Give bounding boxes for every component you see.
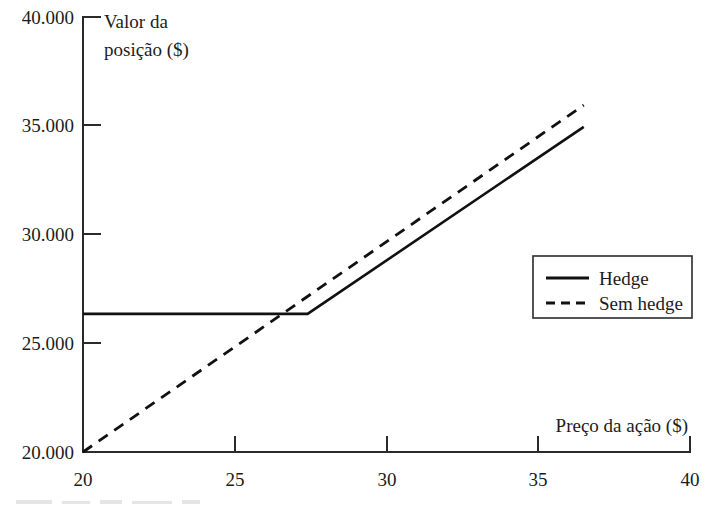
- y-tick-label-35000: 35.000: [22, 115, 74, 136]
- series-line-sem-hedge: [83, 105, 584, 452]
- chart-figure: 40.000 35.000 30.000 25.000 20.000 20 25…: [0, 0, 717, 507]
- x-tick-label-25: 25: [226, 469, 245, 490]
- scan-artifact: [132, 501, 172, 504]
- legend-label-hedge: Hedge: [599, 268, 649, 289]
- x-tick-labels: 20 25 30 35 40: [74, 469, 700, 490]
- chart-legend: Hedge Sem hedge: [533, 256, 692, 318]
- y-tick-label-20000: 20.000: [22, 442, 74, 463]
- y-axis-title-line-2: posição ($): [104, 39, 189, 61]
- y-tick-label-25000: 25.000: [22, 333, 74, 354]
- y-tick-marks: [83, 17, 101, 452]
- scan-artifact: [100, 500, 122, 504]
- y-tick-labels: 40.000 35.000 30.000 25.000 20.000: [22, 7, 74, 463]
- x-axis-title: Preço da ação ($): [556, 415, 688, 437]
- scan-artifact-group: [16, 500, 200, 504]
- series-line-hedge: [83, 127, 584, 314]
- scan-artifact: [16, 500, 52, 504]
- x-tick-marks: [83, 436, 690, 452]
- y-tick-label-40000: 40.000: [22, 7, 74, 28]
- y-tick-label-30000: 30.000: [22, 224, 74, 245]
- legend-label-sem-hedge: Sem hedge: [599, 293, 683, 314]
- hedge-payoff-line-chart: 40.000 35.000 30.000 25.000 20.000 20 25…: [0, 0, 717, 507]
- x-tick-label-20: 20: [74, 469, 93, 490]
- y-axis-title: Valor da posição ($): [104, 11, 189, 61]
- y-axis-title-line-1: Valor da: [104, 11, 168, 32]
- x-tick-label-35: 35: [529, 469, 548, 490]
- x-tick-label-30: 30: [378, 469, 397, 490]
- axis-group: [83, 17, 690, 452]
- series-group: [83, 105, 584, 452]
- x-tick-label-40: 40: [681, 469, 700, 490]
- scan-artifact: [62, 501, 90, 504]
- scan-artifact: [182, 500, 200, 504]
